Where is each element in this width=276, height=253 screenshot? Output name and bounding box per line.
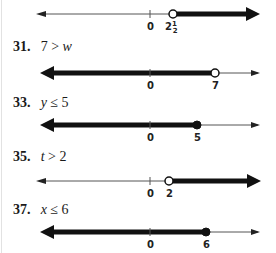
point-label: 6 (203, 239, 210, 250)
arrow-right-icon (251, 229, 260, 235)
number-line-31: 0 7 (0, 59, 276, 89)
number-line-33: 0 5 (0, 111, 276, 141)
tick-label-zero: 0 (147, 188, 154, 199)
inequality: 7 > w (41, 39, 72, 54)
arrow-right-icon (251, 70, 260, 76)
tick-label-zero: 0 (147, 239, 154, 250)
point-label: 212 (165, 20, 178, 35)
arrow-right-icon (247, 174, 261, 188)
open-circle-endpoint (211, 69, 219, 77)
number-line-29: 0 212 (0, 0, 276, 30)
inequality: t > 2 (41, 149, 67, 164)
closed-circle-endpoint (193, 121, 201, 129)
problem-number: 35. (13, 149, 31, 164)
problem-number: 37. (13, 202, 31, 217)
closed-circle-endpoint (202, 228, 210, 236)
arrow-left-icon (40, 66, 54, 80)
point-label: 7 (212, 80, 219, 91)
open-circle-endpoint (169, 10, 177, 18)
arrow-left-icon (36, 178, 46, 184)
problem-33-label: 33. y ≤ 5 (13, 96, 69, 110)
arrow-left-icon (40, 225, 54, 239)
point-label: 5 (194, 132, 201, 143)
arrow-right-icon (251, 122, 260, 128)
arrow-left-icon (40, 118, 54, 132)
arrow-left-icon (36, 11, 46, 17)
point-label: 2 (166, 188, 173, 199)
tick-label-zero: 0 (147, 132, 154, 143)
arrow-right-icon (246, 7, 260, 21)
tick-label-zero: 0 (147, 80, 154, 91)
number-line-37: 0 6 (0, 218, 276, 248)
problem-37-label: 37. x ≤ 6 (13, 203, 69, 217)
number-line-35: 0 2 (0, 167, 276, 197)
inequality: y ≤ 5 (41, 95, 69, 110)
problem-31-label: 31. 7 > w (13, 40, 72, 54)
open-circle-endpoint (165, 177, 173, 185)
inequality: x ≤ 6 (41, 202, 69, 217)
problem-number: 33. (13, 95, 31, 110)
problem-number: 31. (13, 39, 31, 54)
problem-35-label: 35. t > 2 (13, 150, 66, 164)
tick-label-zero: 0 (147, 21, 154, 32)
